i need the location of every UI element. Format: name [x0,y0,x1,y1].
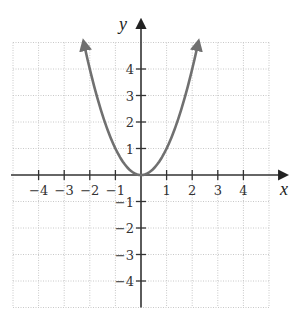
y-tick-label: −4 [115,274,134,289]
x-tick-label: 3 [214,183,222,198]
parabola-chart: −4−3−2−112344321−1−2−3−4 x y [0,0,290,320]
y-tick-label: 1 [126,142,134,157]
x-tick-label: 2 [188,183,196,198]
x-axis-label: x [279,179,288,199]
x-tick-label: −4 [29,183,48,198]
y-tick-label: 2 [126,115,134,130]
y-tick-label: 4 [126,62,134,77]
y-tick-label: −3 [115,248,134,263]
y-axis-label: y [117,14,127,34]
x-tick-label: 1 [162,183,170,198]
x-tick-label: 4 [239,183,247,198]
x-tick-label: −2 [80,183,99,198]
y-tick-label: −2 [115,221,134,236]
x-tick-label: −3 [55,183,74,198]
y-tick-label: 3 [126,89,134,104]
y-tick-label: −1 [115,195,134,210]
axes [11,20,287,308]
